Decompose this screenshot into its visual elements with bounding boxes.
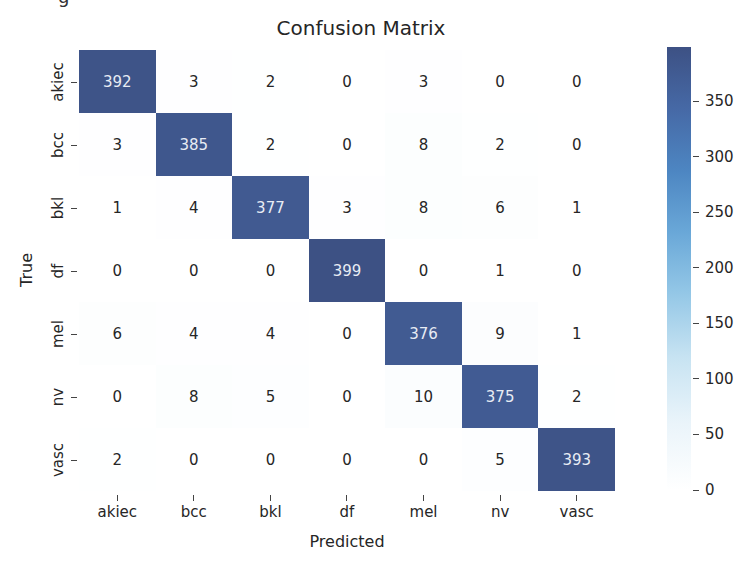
tick-mark [71, 82, 77, 83]
tick-mark [71, 208, 77, 209]
heatmap-cell: 0 [79, 365, 156, 428]
y-tick-bkl: bkl [30, 176, 79, 239]
colorbar-tick-label: 50 [705, 425, 724, 443]
heatmap-cell: 0 [309, 365, 386, 428]
x-tick-nv: nv [462, 491, 539, 531]
heatmap-cell: 0 [538, 50, 615, 113]
heatmap-cell: 3 [385, 50, 462, 113]
colorbar-tick: 100 [693, 371, 734, 387]
x-tick-label: vasc [538, 503, 615, 521]
heatmap-cell: 1 [462, 239, 539, 302]
heatmap-cell: 0 [79, 239, 156, 302]
x-tick-bcc: bcc [156, 491, 233, 531]
y-tick-label: vasc [49, 442, 67, 476]
colorbar-tick-label: 350 [705, 92, 734, 110]
heatmap-cell: 2 [232, 113, 309, 176]
heatmap-cell: 8 [385, 113, 462, 176]
heatmap-cell: 0 [385, 239, 462, 302]
x-tick-vasc: vasc [538, 491, 615, 531]
colorbar-tick-label: 250 [705, 203, 734, 221]
heatmap-cell: 0 [232, 428, 309, 491]
heatmap-cell: 3 [79, 113, 156, 176]
heatmap-cell: 0 [156, 239, 233, 302]
colorbar-tick: 50 [693, 426, 724, 442]
y-tick-nv: nv [30, 365, 79, 428]
heatmap-cell: 0 [156, 428, 233, 491]
x-tick-df: df [309, 491, 386, 531]
heatmap-cell: 1 [79, 176, 156, 239]
colorbar-tick: 150 [693, 315, 734, 331]
heatmap-cell: 385 [156, 113, 233, 176]
x-tick-label: mel [385, 503, 462, 521]
tick-mark [71, 460, 77, 461]
tick-mark [693, 156, 699, 157]
tick-mark [193, 495, 194, 501]
heatmap-cell: 399 [309, 239, 386, 302]
tick-mark [693, 267, 699, 268]
y-tick-bcc: bcc [30, 113, 79, 176]
colorbar-tick-label: 300 [705, 148, 734, 166]
tick-mark [423, 495, 424, 501]
chart-title: Confusion Matrix [0, 16, 716, 40]
heatmap-cell: 0 [309, 302, 386, 365]
tick-mark [71, 145, 77, 146]
heatmap-cell: 0 [385, 428, 462, 491]
tick-mark [693, 378, 699, 379]
colorbar-tick: 300 [693, 149, 734, 165]
heatmap-cell: 376 [385, 302, 462, 365]
y-tick-label: df [49, 263, 67, 278]
heatmap-cell: 0 [538, 113, 615, 176]
y-tick-label: mel [49, 319, 67, 347]
heatmap-cell: 0 [462, 50, 539, 113]
y-tick-vasc: vasc [30, 428, 79, 491]
heatmap-cell: 2 [232, 50, 309, 113]
heatmap-cell: 3 [309, 176, 386, 239]
heatmap-cell: 0 [309, 50, 386, 113]
tick-mark [576, 495, 577, 501]
colorbar-tick-label: 200 [705, 259, 734, 277]
heatmap-cell: 5 [462, 428, 539, 491]
tick-mark [500, 495, 501, 501]
heatmap-cell: 375 [462, 365, 539, 428]
heatmap-cell: 6 [79, 302, 156, 365]
heatmap-cell: 0 [309, 428, 386, 491]
x-tick-akiec: akiec [79, 491, 156, 531]
x-tick-label: bcc [156, 503, 233, 521]
heatmap-cell: 4 [156, 176, 233, 239]
colorbar [667, 47, 691, 490]
x-tick-label: df [309, 503, 386, 521]
heatmap-cell: 393 [538, 428, 615, 491]
tick-mark [117, 495, 118, 501]
tick-mark [693, 101, 699, 102]
y-tick-mel: mel [30, 302, 79, 365]
heatmap-cell: 2 [538, 365, 615, 428]
tick-mark [693, 212, 699, 213]
heatmap-grid: 3923203003385208201437738610003990106440… [79, 50, 615, 491]
colorbar-tick: 350 [693, 93, 734, 109]
x-tick-label: bkl [232, 503, 309, 521]
y-tick-label: nv [49, 387, 67, 405]
colorbar-tick-label: 100 [705, 370, 734, 388]
x-axis-label: Predicted [79, 532, 615, 551]
colorbar-tick: 250 [693, 204, 734, 220]
heatmap-cell: 9 [462, 302, 539, 365]
heatmap-cell: 1 [538, 302, 615, 365]
colorbar-tick: 0 [693, 482, 715, 498]
heatmap-cell: 377 [232, 176, 309, 239]
tick-mark [693, 434, 699, 435]
tick-mark [346, 495, 347, 501]
y-tick-label: bkl [49, 196, 67, 218]
y-tick-label: akiec [49, 62, 67, 102]
tick-mark [693, 323, 699, 324]
heatmap-cell: 392 [79, 50, 156, 113]
heatmap-cell: 0 [309, 113, 386, 176]
heatmap-cell: 2 [462, 113, 539, 176]
heatmap-cell: 8 [385, 176, 462, 239]
colorbar-tick-label: 150 [705, 314, 734, 332]
tick-mark [270, 495, 271, 501]
heatmap-cell: 4 [156, 302, 233, 365]
heatmap-cell: 0 [538, 239, 615, 302]
heatmap-cell: 5 [232, 365, 309, 428]
heatmap-cell: 4 [232, 302, 309, 365]
heatmap-cell: 0 [232, 239, 309, 302]
